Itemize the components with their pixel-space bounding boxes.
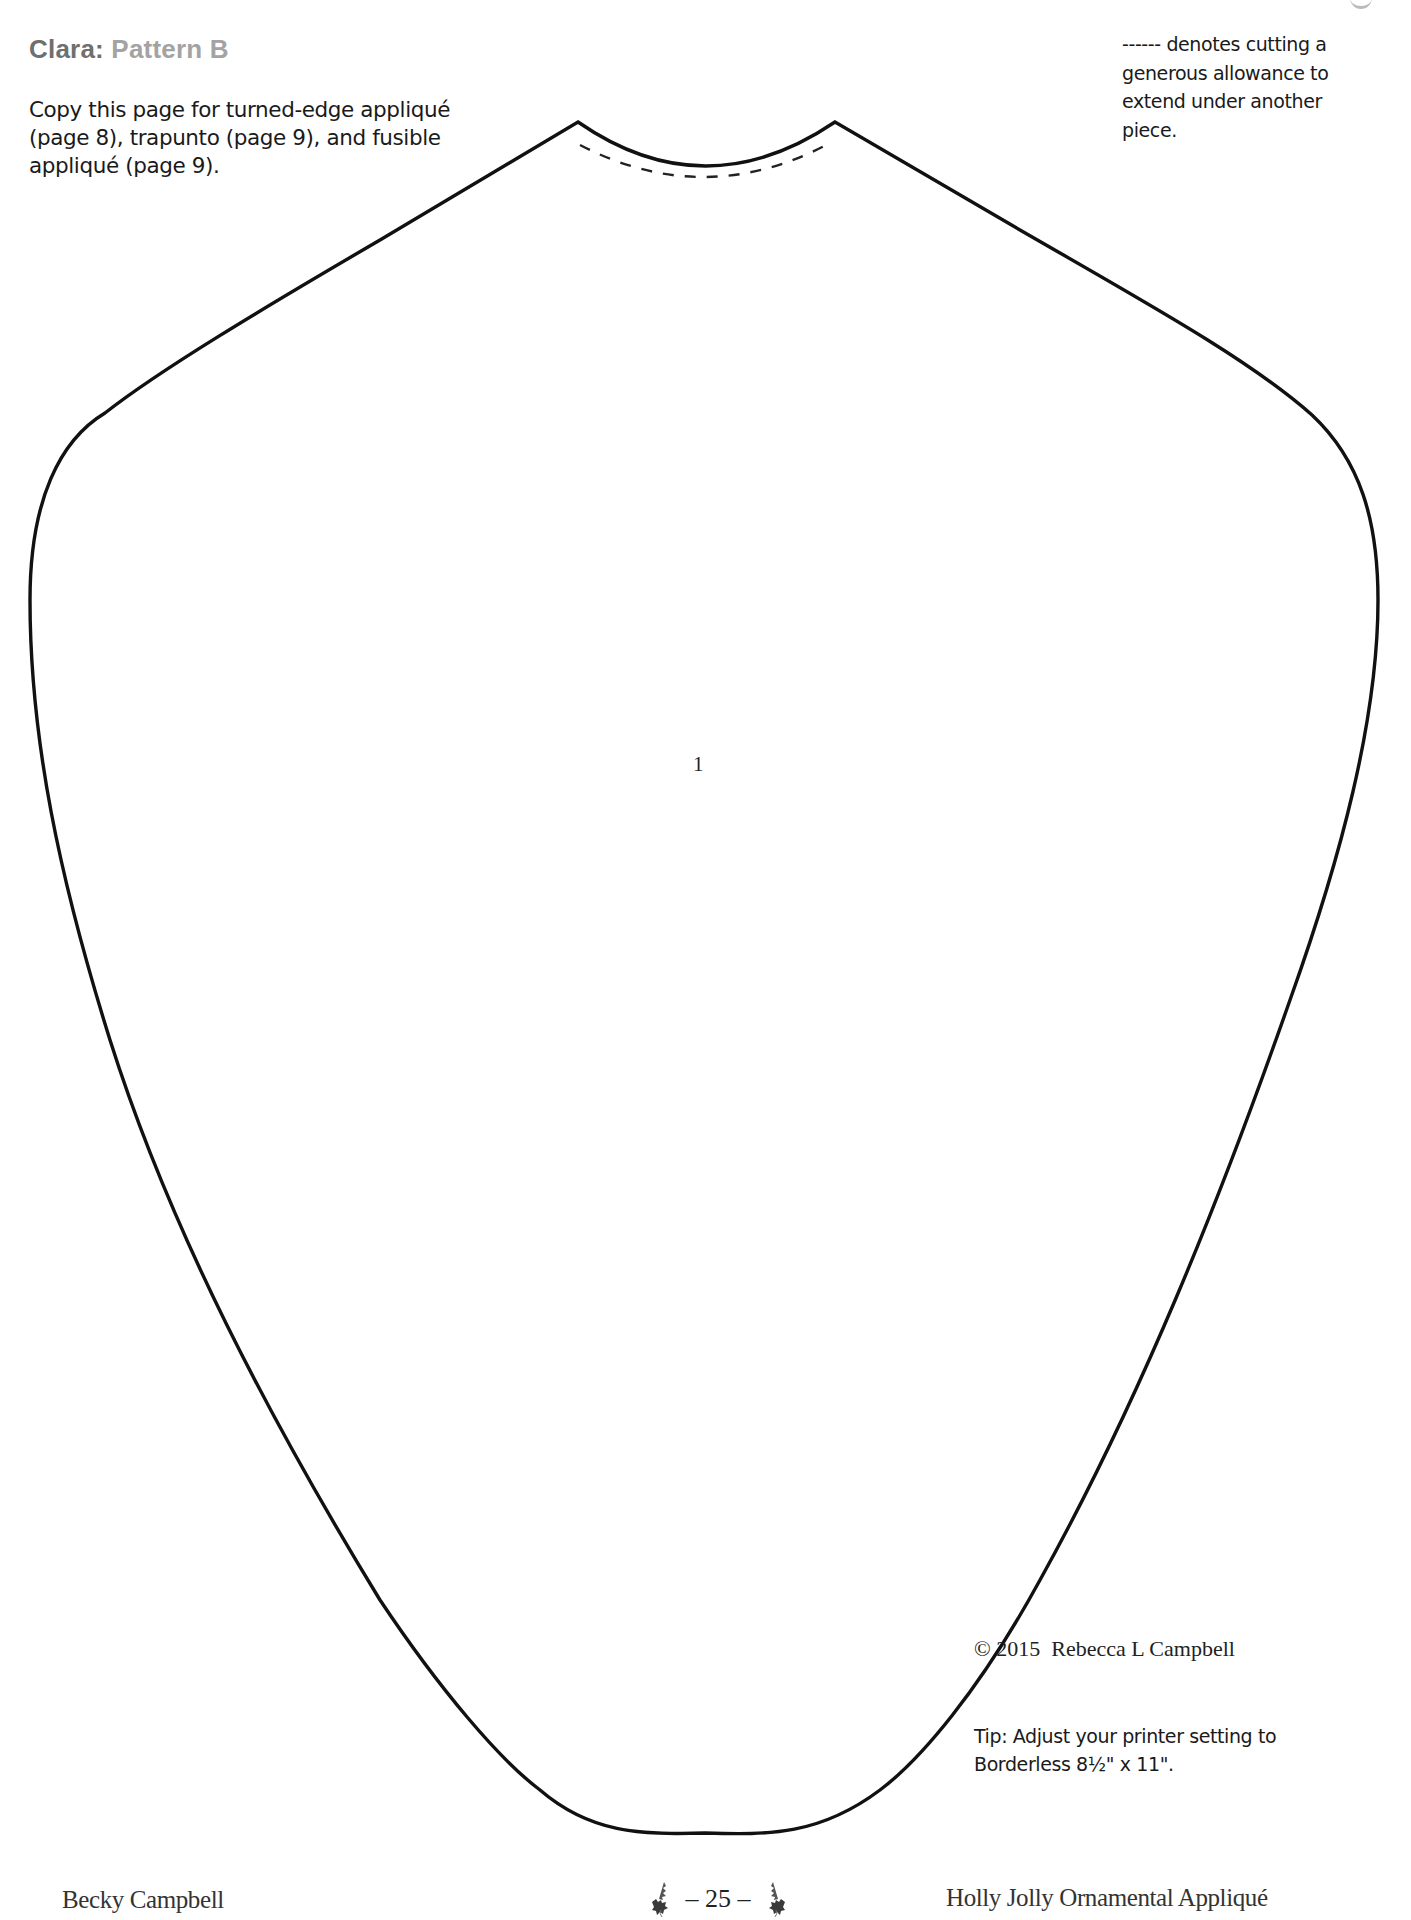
piece-number: 1 <box>693 752 704 777</box>
holly-leaf-icon <box>648 1880 674 1918</box>
title-pattern: Pattern B <box>111 34 228 64</box>
dashed-line-legend: ------ denotes cutting a generous allowa… <box>1122 30 1362 144</box>
footer-page-number: – 25 – <box>628 1878 808 1920</box>
holly-leaf-icon <box>763 1880 789 1918</box>
pattern-page: Clara: Pattern B Copy this page for turn… <box>0 0 1411 1920</box>
dashed-allowance-line <box>580 143 830 177</box>
pattern-outline-path <box>30 122 1378 1834</box>
printer-tip: Tip: Adjust your printer setting to Bord… <box>974 1722 1314 1778</box>
title-name: Clara: <box>29 34 104 64</box>
page-title: Clara: Pattern B <box>29 34 229 65</box>
pattern-piece-outline <box>0 0 1411 1920</box>
intro-text: Copy this page for turned-edge appliqué … <box>29 96 499 180</box>
footer-author: Becky Campbell <box>62 1886 224 1914</box>
copyright-notice: © 2015 Rebecca L Campbell <box>974 1636 1235 1662</box>
page-number: – 25 – <box>686 1884 751 1914</box>
footer-book-title: Holly Jolly Ornamental Appliqué <box>946 1884 1268 1912</box>
